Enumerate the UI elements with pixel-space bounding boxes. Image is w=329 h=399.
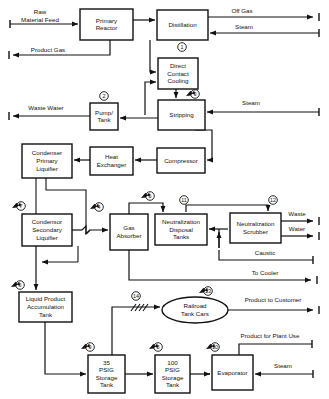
stripping-label: Stripping	[169, 111, 194, 118]
line-stripping-to-dcc	[145, 82, 156, 115]
line-distillation-to-dcc	[150, 40, 156, 72]
railroad-tank-cars-label: RailroadTank Cars	[181, 302, 209, 317]
line-to-cooler	[129, 250, 311, 280]
stream-label-caustic: Caustic	[255, 249, 276, 256]
process-unit-neutralization-disposal-tanks[interactable]: NeutralizationDisposalTanks	[155, 214, 207, 245]
marker-sample-point-3[interactable]: 3	[186, 90, 199, 99]
stream-label-steam-distillation: Steam	[235, 23, 253, 30]
marker-sample-point-1[interactable]: 1	[178, 43, 187, 52]
line-product-plant-use	[239, 344, 312, 355]
marker-sample-point-7[interactable]: 7	[12, 202, 25, 211]
sample-point-11-number: 11	[181, 197, 187, 203]
process-unit-pump-tank[interactable]: Pump/Tank	[90, 103, 118, 130]
process-unit-heat-exchanger[interactable]: HeatExchanger	[90, 147, 133, 175]
process-flow-diagram: PrimaryReactorDistillationDirectContactC…	[0, 0, 329, 399]
stream-label-water: Water	[289, 225, 305, 232]
line-11-to-scrubber	[186, 205, 268, 212]
process-unit-condensor-secondary[interactable]: CondensorSecondaryLiquifier	[22, 214, 72, 246]
line-absorber-to-disposal	[129, 203, 163, 214]
process-unit-stripping[interactable]: Stripping	[158, 100, 205, 130]
stream-label-product-gas: Product Gas	[31, 46, 65, 53]
marker-sample-point-4[interactable]: 4	[90, 203, 103, 212]
distillation-label: Distillation	[168, 21, 197, 28]
process-unit-neutralization-scrubber[interactable]: NeutralizationScrubber	[230, 213, 281, 243]
process-unit-distillation[interactable]: Distillation	[157, 10, 208, 40]
marker-sample-point-6[interactable]: 6	[11, 281, 24, 290]
evaporator-label: Evaporator	[217, 368, 247, 375]
process-unit-direct-contact-cooling[interactable]: DirectContactCooling	[158, 58, 198, 89]
stream-label-steam-stripping: Steam	[242, 99, 260, 106]
marker-sample-point-9[interactable]: 9	[81, 343, 94, 352]
pump-tank-label: Pump/Tank	[95, 108, 113, 123]
marker-sample-point-10[interactable]: 10	[206, 343, 219, 352]
marker-sample-point-14[interactable]: 14	[132, 292, 141, 301]
sample-point-1-number: 1	[181, 44, 184, 50]
process-unit-compressor[interactable]: Compressor	[157, 148, 205, 173]
marker-sample-point-5[interactable]: 5	[141, 192, 154, 201]
process-unit-liquid-product-accumulation-tank[interactable]: Liquid ProductAccumulationTank	[19, 292, 72, 322]
primary-reactor-label: PrimaryReactor	[96, 16, 118, 31]
stream-label-waste: Waste	[288, 210, 306, 217]
process-unit-condenser-primary[interactable]: CondenserPrimaryLiquifier	[22, 144, 72, 178]
process-unit-gas-absorber[interactable]: GasAbsorber	[110, 214, 148, 250]
sample-point-2-number: 2	[103, 93, 106, 99]
marker-sample-point-8[interactable]: 8	[149, 343, 162, 352]
direct-contact-cooling-label: DirectContactCooling	[167, 62, 189, 84]
stream-label-product-to-customer: Product to Customer	[245, 296, 302, 303]
stream-label-off-gas: Off Gas	[231, 7, 252, 14]
stream-label-waste-water: Waste Water	[28, 104, 63, 111]
stream-label-raw-material-feed: RawMaterial Feed	[21, 8, 59, 23]
process-unit-evaporator[interactable]: Evaporator	[212, 355, 253, 390]
stream-label-product-for-plant-use: Product for Plant Use	[241, 332, 300, 339]
stream-label-steam-evaporator: Steam	[274, 362, 292, 369]
sample-point-12-number: 12	[270, 197, 276, 203]
process-unit-storage-tank-35[interactable]: 35PSIGStorageTank	[88, 355, 125, 393]
sample-point-14-number: 14	[133, 293, 139, 299]
marker-sample-point-13[interactable]: 13	[199, 287, 212, 296]
process-unit-primary-reactor[interactable]: PrimaryReactor	[80, 9, 133, 40]
compressor-label: Compressor	[164, 156, 198, 163]
stream-label-to-cooler: To Cooler	[252, 269, 278, 276]
line-merge-junction	[82, 226, 90, 234]
process-unit-railroad-tank-cars[interactable]: RailroadTank Cars	[162, 297, 228, 323]
marker-sample-point-11[interactable]: 11	[180, 196, 189, 205]
condenser-primary-label: CondenserPrimaryLiquifier	[32, 149, 62, 171]
line-accum-to-35psig	[45, 322, 86, 374]
marker-sample-point-2[interactable]: 2	[100, 92, 109, 101]
marker-sample-point-12[interactable]: 12	[269, 196, 278, 205]
process-unit-storage-tank-100[interactable]: 100PSIGStorageTank	[155, 355, 190, 393]
